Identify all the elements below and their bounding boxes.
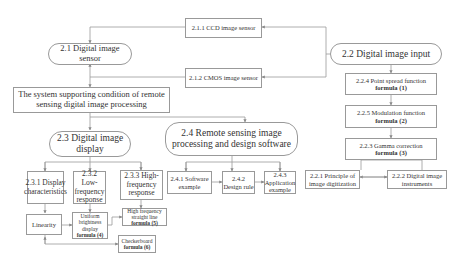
node-label: 2.3.2 Low-frequency response — [74, 170, 105, 205]
node-remote-sensing-software: 2.4 Remote sensing image processing and … — [165, 122, 298, 156]
node-design-rule: 2.4.2 Design rule — [222, 171, 255, 194]
node-label: 2.3.1 Display characteristics — [24, 179, 67, 196]
node-uniform-brightness-display: Uniform brightness display formula (4) — [72, 212, 108, 239]
node-label: 2.1.1 CCD image sensor — [192, 24, 256, 31]
node-label: 2.2.2 Digital image instruments — [388, 172, 446, 187]
formula-label: formula (2) — [375, 117, 407, 124]
node-label: 2.4 Remote sensing image processing and … — [172, 128, 291, 150]
node-label: 2.3.3 High-frequency response — [121, 172, 162, 198]
node-label: 2.1 Digital image sensor — [49, 44, 131, 64]
node-label: 2.3 Digital image display — [56, 133, 124, 155]
node-point-spread-function: 2.2.4 Point spread function formula (1) — [345, 73, 437, 95]
node-label: 2.2 Digital image input — [342, 49, 430, 60]
node-software-example: 2.4.1 Software example — [167, 171, 212, 194]
formula-label: formula (1) — [375, 84, 407, 91]
node-high-frequency-straight-line: High frequency straight line formula (5) — [122, 208, 167, 226]
node-label: 2.4.3 Application example — [265, 171, 296, 193]
diagram-canvas: 2.1.1 CCD image sensor 2.1.2 CMOS image … — [0, 0, 453, 267]
node-label: 2.4.1 Software example — [168, 175, 211, 190]
node-gamma-correction: 2.2.3 Gamma correction formula (3) — [345, 138, 437, 160]
node-linearity: Linearity — [26, 214, 62, 235]
node-digital-image-display: 2.3 Digital image display — [49, 131, 131, 157]
node-label: 2.4.2 Design rule — [223, 175, 254, 190]
node-label: Linearity — [32, 221, 56, 228]
node-principle-of-image-digitization: 2.2.1 Principle of image digitization — [305, 170, 360, 189]
node-label: High frequency straight line — [123, 208, 166, 221]
formula-label: formula (4) — [77, 232, 104, 238]
node-display-characteristics: 2.3.1 Display characteristics — [27, 171, 64, 204]
node-label: 2.2.3 Gamma correction — [359, 142, 422, 149]
node-label: The system supporting condition of remot… — [18, 90, 165, 110]
node-high-frequency-response: 2.3.3 High-frequency response — [120, 170, 163, 200]
node-label: 2.2.4 Point spread function — [356, 77, 426, 84]
node-low-frequency-response: 2.3.2 Low-frequency response — [73, 171, 106, 204]
formula-label: formula (3) — [375, 149, 407, 156]
node-digital-image-instruments: 2.2.2 Digital image instruments — [387, 170, 447, 189]
formula-label: formula (5) — [131, 220, 158, 226]
node-digital-image-input: 2.2 Digital image input — [330, 43, 442, 65]
node-ccd-image-sensor: 2.1.1 CCD image sensor — [185, 18, 262, 38]
node-modulation-function: 2.2.5 Modulation function formula (2) — [345, 105, 437, 128]
node-label: 2.1.2 CMOS image sensor — [189, 74, 258, 81]
formula-label: formula (6) — [124, 244, 151, 250]
node-cmos-image-sensor: 2.1.2 CMOS image sensor — [185, 68, 262, 88]
node-application-example: 2.4.3 Application example — [264, 171, 296, 194]
node-label: Uniform brightness display — [73, 213, 107, 232]
node-label: 2.2.5 Modulation function — [357, 109, 425, 116]
node-digital-image-sensor: 2.1 Digital image sensor — [48, 43, 132, 65]
node-root-system: The system supporting condition of remot… — [13, 87, 170, 113]
node-label: 2.2.1 Principle of image digitization — [306, 172, 359, 187]
node-checkerboard: Checkerboard formula (6) — [118, 235, 156, 253]
